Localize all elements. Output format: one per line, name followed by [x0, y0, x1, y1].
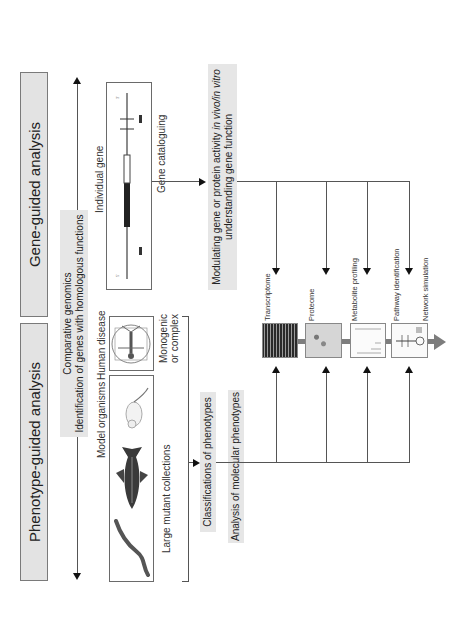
gene-guided-title-text: Gene-guided analysis: [26, 122, 43, 267]
modulating-branch-4: [409, 182, 410, 268]
arrow-down-icon: [199, 178, 206, 186]
modulating-line2: understanding gene function: [223, 114, 235, 240]
molecular-branch-3: [367, 368, 368, 463]
modulating-branch-3: [367, 182, 368, 268]
worm-icon: [112, 517, 152, 577]
diagram-canvas: Phenotype-guided analysis Gene-guided an…: [0, 0, 454, 633]
modulating-line1-italic: in vivo/in vitro: [211, 69, 222, 130]
modulating-line1: Modulating gene or protein activity in v…: [211, 69, 223, 285]
spectrum-thumbnail: [350, 323, 386, 358]
arrow-right-icon: [73, 77, 81, 84]
arrow-left-icon: [73, 573, 81, 580]
model-organisms-label: Model organisms: [96, 382, 107, 458]
pathway-thumbnail: [391, 323, 428, 358]
classification-label: Classifications of phenotypes: [200, 392, 216, 532]
gene-guided-title: Gene-guided analysis: [20, 72, 48, 317]
arrow-down-icon: [193, 459, 200, 467]
model-organisms-box: [109, 375, 154, 582]
2d-gel-thumbnail: [305, 323, 342, 358]
arrow-right-icon: [322, 366, 330, 373]
molecular-bus: [244, 462, 410, 463]
gene-structure-icon: 5' 3': [107, 83, 151, 289]
modulating-branch-1: [276, 182, 277, 268]
svg-text:5': 5': [115, 274, 120, 277]
modulating-label: Modulating gene or protein activity in v…: [208, 64, 237, 290]
bracket-line: [188, 316, 189, 582]
vitruvian-man-icon: [110, 317, 153, 370]
molecular-branch-4: [409, 368, 410, 463]
pathway-diagram-icon: [392, 324, 427, 357]
fish-icon: [112, 443, 152, 513]
arrow-left-icon: [322, 268, 330, 275]
arrow-left-icon: [363, 268, 371, 275]
molecular-analysis-text: Analysis of molecular phenotypes: [230, 392, 242, 541]
molecular-connector-vertical: [216, 462, 246, 463]
mouse-icon: [112, 386, 152, 436]
spectrum-chart-icon: [351, 324, 385, 357]
modulating-bus: [237, 181, 410, 182]
omics-label-proteome: Proteome: [307, 288, 316, 321]
human-disease-box: [109, 316, 154, 371]
omics-label-network: Network simulation: [421, 258, 430, 321]
classification-text: Classifications of phenotypes: [202, 397, 214, 527]
comparative-genomics-line2: Identification of genes with homologous …: [74, 215, 86, 433]
svg-text:3': 3': [115, 96, 120, 99]
molecular-analysis-label: Analysis of molecular phenotypes: [228, 390, 244, 543]
molecular-branch-1: [276, 368, 277, 463]
comparative-genomics-label: Comparative genomics Identification of g…: [60, 210, 88, 437]
omics-flow-arrow-icon: [434, 334, 446, 350]
bracket-right-tick: [182, 316, 189, 317]
monogenic-label: Monogenic or complex: [158, 314, 180, 363]
phenotype-guided-title: Phenotype-guided analysis: [20, 323, 48, 581]
human-disease-label: Human disease: [96, 311, 107, 380]
arrow-right-icon: [272, 366, 280, 373]
monogenic-line1: Monogenic: [158, 314, 169, 363]
arrow-right-icon: [363, 366, 371, 373]
bracket-left-tick: [182, 581, 189, 582]
phenotype-guided-title-text: Phenotype-guided analysis: [26, 362, 43, 542]
monogenic-line2: or complex: [169, 314, 180, 363]
omics-label-pathway: Pathway identification: [392, 248, 401, 321]
arrow-right-icon: [405, 366, 413, 373]
modulating-line1-prefix: Modulating gene or protein activity: [211, 130, 222, 285]
individual-gene-label: Individual gene: [94, 146, 105, 213]
microarray-thumbnail: [262, 323, 298, 358]
omics-label-metabolite: Metabolite profiling: [350, 258, 359, 321]
molecular-branch-2: [326, 368, 327, 463]
arrow-left-icon: [272, 268, 280, 275]
omics-label-transcriptome: Transcriptome: [263, 273, 272, 321]
gene-to-modulating-line: [152, 181, 202, 182]
individual-gene-box: 5' 3': [106, 82, 152, 290]
large-mutant-collections-label: Large mutant collections: [161, 445, 172, 553]
comparative-genomics-line1: Comparative genomics: [62, 272, 74, 374]
modulating-branch-2: [326, 182, 327, 268]
arrow-left-icon: [405, 268, 413, 275]
